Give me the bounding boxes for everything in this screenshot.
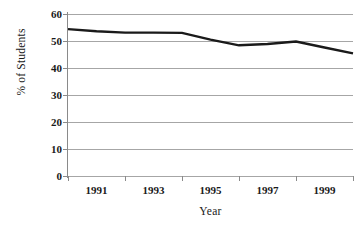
y-axis-tick-label: 50: [51, 35, 62, 47]
y-axis-tick-label: 20: [51, 116, 62, 128]
x-axis-tick-label: 1997: [257, 184, 279, 196]
x-axis-tick-mark: [125, 176, 126, 181]
y-axis-tick-label: 40: [51, 62, 62, 74]
x-axis-tick-mark: [68, 176, 69, 181]
x-axis-tick-label: 1993: [143, 184, 165, 196]
x-axis-tick-mark: [239, 176, 240, 181]
data-series-line: [68, 14, 353, 176]
x-axis-tick-label: 1991: [86, 184, 108, 196]
line-chart: % of Students 0102030405060 199119931995…: [0, 0, 361, 229]
x-axis-tick-label: 1999: [314, 184, 336, 196]
x-axis-tick-mark: [353, 176, 354, 181]
y-axis-tick-label: 10: [51, 143, 62, 155]
x-axis-title: Year: [68, 205, 353, 217]
plot-area: 0102030405060 199119931995199719992001: [68, 14, 353, 176]
x-axis-tick-mark: [296, 176, 297, 181]
x-axis-tick-label: 1995: [200, 184, 222, 196]
y-axis-tick-label: 30: [51, 89, 62, 101]
y-axis-title: % of Students: [15, 0, 27, 127]
y-axis-tick-label: 0: [57, 170, 63, 182]
y-axis-tick-label: 60: [51, 8, 62, 20]
gridline: [68, 176, 353, 177]
x-axis-tick-mark: [182, 176, 183, 181]
